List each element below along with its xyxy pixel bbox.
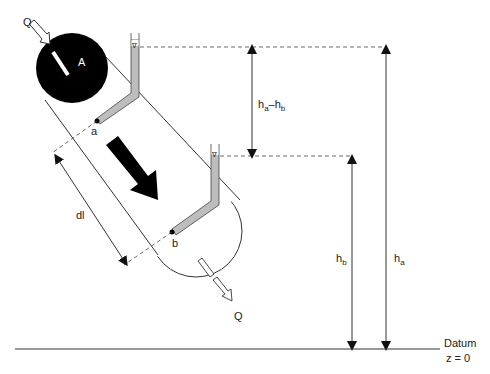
svg-text:hb: hb xyxy=(336,252,347,267)
area-label: A xyxy=(78,56,86,68)
datum-label: Datum xyxy=(444,337,476,349)
outflow-label: Q xyxy=(234,310,243,322)
inflow-label: Q xyxy=(23,16,32,28)
length-dl-label: dl xyxy=(76,209,85,221)
head-difference-label: ha–hb xyxy=(258,98,286,113)
darcy-diagram: Q A ∇ a ∇ b Q dl ha–hb hb xyxy=(0,0,490,374)
water-level-a-icon: ∇ xyxy=(131,42,137,49)
head-a-label: ha xyxy=(394,252,405,267)
head-b-label: hb xyxy=(336,252,347,267)
svg-text:ha: ha xyxy=(394,252,405,267)
water-level-b-icon: ∇ xyxy=(211,151,217,158)
point-a-label: a xyxy=(91,125,98,137)
datum-z-label: z = 0 xyxy=(446,352,470,364)
point-b-label: b xyxy=(172,237,178,249)
svg-text:ha–hb: ha–hb xyxy=(258,98,286,113)
